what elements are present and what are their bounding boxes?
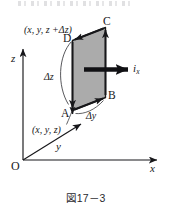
leader-delta-z-curve <box>61 42 72 105</box>
label-delta-y: Δy <box>86 111 96 121</box>
vertex-label-b: B <box>108 90 116 102</box>
label-delta-z: Δz <box>44 72 54 82</box>
figure-17-3: z O x y (x, y, z +Δz) (x, y, z) C D B A … <box>0 0 172 211</box>
axis-label-x: x <box>150 163 155 174</box>
vertex-label-c: C <box>103 16 111 28</box>
axis-label-y: y <box>56 141 61 152</box>
vertex-label-a: A <box>61 108 69 120</box>
axis-label-origin: O <box>11 160 20 172</box>
current-subscript: x <box>136 67 140 76</box>
vertex-label-d: D <box>63 33 71 45</box>
label-current-density: ix <box>133 63 140 75</box>
label-corner-lower: (x, y, z) <box>32 125 61 135</box>
figure-caption: 図17－3 <box>0 190 172 205</box>
axis-label-z: z <box>11 53 15 64</box>
